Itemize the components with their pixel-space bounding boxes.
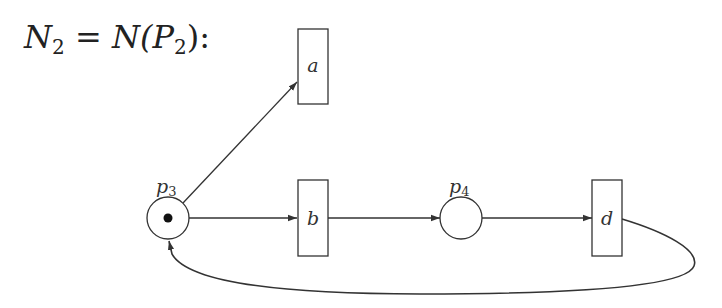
place-p3-label: p3 — [156, 175, 176, 199]
transition-a-label: a — [307, 54, 318, 76]
transition-b: b — [298, 180, 328, 256]
place-p4-label: p4 — [449, 175, 469, 199]
arc-p3-to-a — [183, 82, 297, 203]
transition-d-label: d — [601, 207, 613, 229]
transition-d: d — [592, 180, 622, 256]
place-p3: p3 — [147, 175, 189, 239]
petri-net-diagram: a p3 b p4 d — [0, 0, 722, 308]
place-p4: p4 — [440, 175, 482, 239]
token — [164, 214, 173, 223]
transition-b-label: b — [307, 207, 319, 229]
transition-a: a — [298, 29, 328, 104]
